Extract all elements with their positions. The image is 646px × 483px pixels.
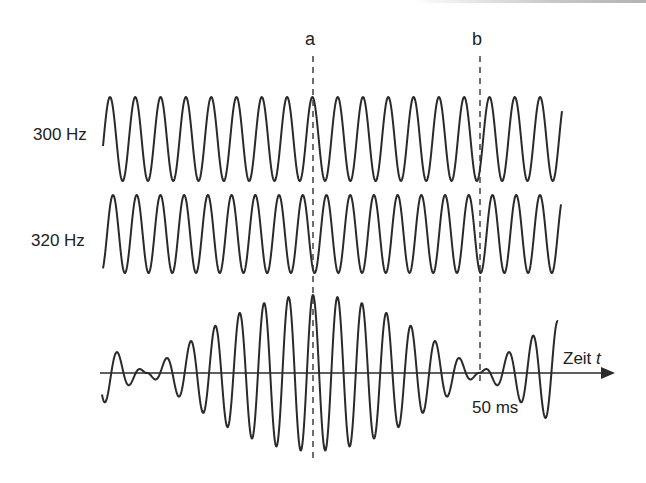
marker-a-label: a bbox=[305, 30, 315, 48]
time-axis-label-text: Zeit bbox=[563, 349, 591, 368]
time-variable: t bbox=[596, 349, 601, 368]
signal-320hz-label: 320 Hz bbox=[31, 232, 85, 249]
marker-b-label: b bbox=[472, 30, 482, 48]
arrow-right-icon bbox=[601, 367, 615, 379]
sine-wave-320hz bbox=[103, 195, 561, 273]
beat-diagram bbox=[0, 0, 646, 483]
duration-label: 50 ms bbox=[472, 399, 518, 416]
signal-300hz-label: 300 Hz bbox=[33, 126, 87, 143]
sine-wave-300hz bbox=[103, 97, 562, 181]
time-axis-label: Zeit t bbox=[563, 350, 601, 367]
